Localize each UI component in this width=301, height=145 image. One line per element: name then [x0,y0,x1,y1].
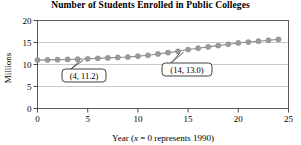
y-axis-tick-labels: 05101520 [23,16,33,114]
data-point [135,54,140,59]
chart-page: Number of Students Enrolled in Public Co… [0,0,301,145]
data-point [266,38,271,43]
callout-label: (14, 13.0) [170,65,203,75]
data-point [216,43,221,48]
x-tick-label: 20 [234,114,244,124]
x-axis-title-prefix: Year ( [112,133,134,143]
data-point [226,42,231,47]
data-point [85,56,90,61]
data-point [65,57,70,62]
data-point [256,39,261,44]
data-point [55,57,60,62]
data-point [276,37,281,42]
scatter-chart: 0510152025 05101520 (4, 11.2)(14, 13.0) … [0,0,301,145]
data-point [95,56,100,61]
x-axis-title-suffix: = 0 represents 1990) [138,133,214,143]
data-point [45,57,50,62]
y-tick-label: 5 [27,82,32,92]
data-point [75,57,80,62]
callout-label: (4, 11.2) [70,71,99,81]
x-tick-label: 0 [35,114,40,124]
x-tick-label: 10 [133,114,143,124]
y-tick-label: 0 [27,104,32,114]
data-point [206,44,211,49]
data-point [236,40,241,45]
y-axis-ticks [34,21,38,109]
x-axis-title: Year (x = 0 represents 1990) [112,133,214,143]
x-tick-label: 5 [85,114,90,124]
data-point [186,47,191,52]
data-point [125,54,130,59]
data-point [165,50,170,55]
y-tick-label: 10 [23,60,33,70]
data-point [105,55,110,60]
data-point [145,53,150,58]
x-tick-label: 15 [184,114,194,124]
x-axis-tick-labels: 0510152025 [35,114,293,124]
y-axis-title: Millions [3,52,13,83]
y-tick-label: 20 [23,16,33,26]
data-point [246,39,251,44]
data-point [196,46,201,51]
y-tick-label: 15 [23,38,33,48]
data-point [155,51,160,56]
x-tick-label: 25 [284,114,294,124]
x-axis-ticks [38,109,289,113]
data-point [175,49,180,54]
data-point [115,55,120,60]
data-point [35,58,40,63]
